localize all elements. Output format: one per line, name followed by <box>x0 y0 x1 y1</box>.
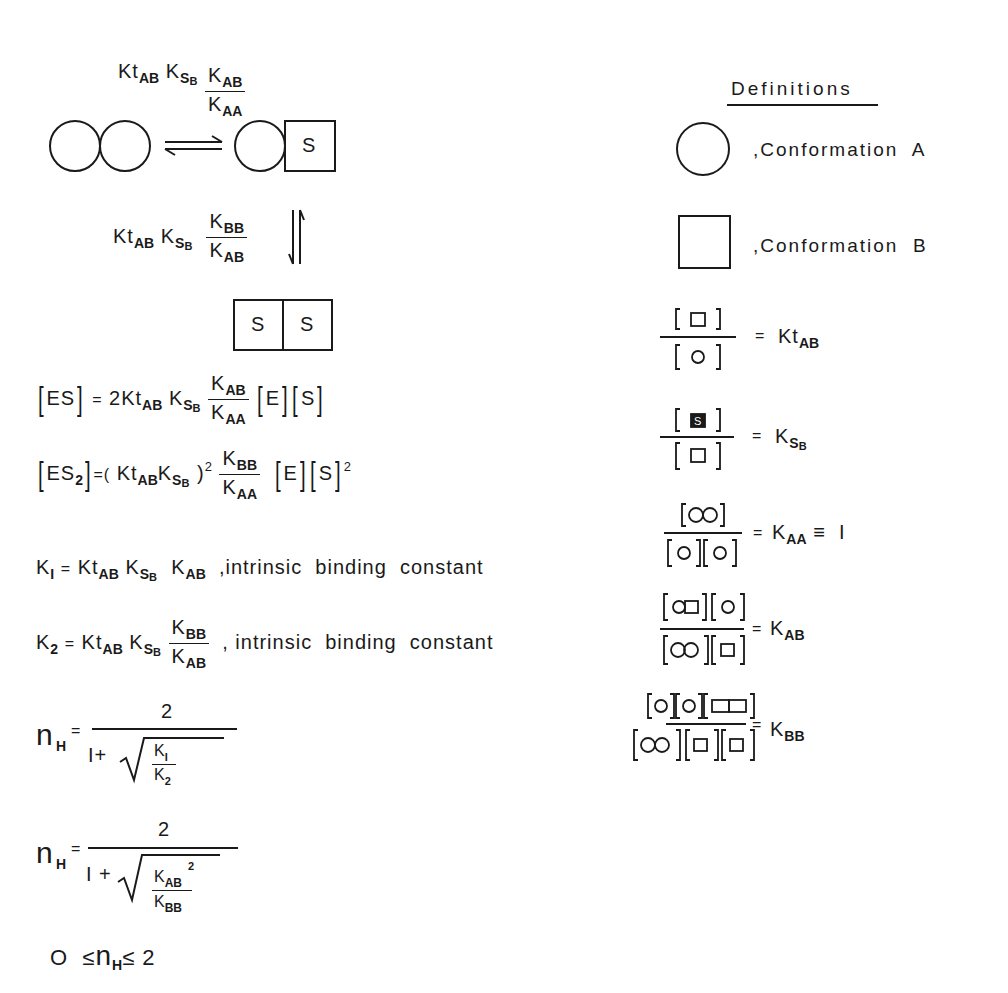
step2-rate-expression: KtAB KSB KBB KAB <box>113 210 247 265</box>
kab-subscript: AB <box>784 627 804 643</box>
nh-subscript: H <box>56 738 66 754</box>
es2-subscript: 2 <box>75 472 83 488</box>
kt-subscript: AB <box>134 235 154 251</box>
k-symbol: K <box>154 766 165 783</box>
k-symbol: K <box>209 210 223 232</box>
es2-label-s-left: S <box>251 313 265 336</box>
identical-to-one: ≡ I <box>813 521 845 543</box>
kt-subscript: AB <box>99 566 119 582</box>
fraction-numerator: KBB <box>169 616 210 644</box>
denominator-prefix: I+ <box>88 744 107 767</box>
definition-kaa: = KAA ≡ I <box>650 500 880 580</box>
radicand-numerator: KAB <box>154 868 182 890</box>
k-subscript: BB <box>237 457 257 473</box>
power-2: 2 <box>188 860 194 872</box>
s-symbol: S <box>301 387 315 409</box>
svg-text:S: S <box>694 415 701 427</box>
e-symbol: E <box>266 387 280 409</box>
k2-subscript: 2 <box>50 641 58 657</box>
es2-label-s-right: S <box>300 313 314 336</box>
bracket-open: [ <box>293 379 299 418</box>
main-fraction-bar <box>92 728 237 730</box>
k-symbol: K <box>209 239 223 261</box>
kt-subscript: AB <box>103 641 123 657</box>
ks-subscript: S <box>175 235 184 251</box>
k1-note: ,intrinsic binding constant <box>219 556 484 578</box>
k-symbol: K <box>211 372 225 394</box>
nh-subscript: H <box>56 856 66 872</box>
fraction-denominator: KAB <box>169 644 210 671</box>
radicand-fraction-bar <box>152 890 192 891</box>
fraction-numerator: KAB <box>208 372 249 400</box>
kt-symbol: Kt <box>117 462 138 484</box>
bracket-open: [ <box>38 379 44 418</box>
equals-sign: = <box>61 560 71 577</box>
k-subscript: BB <box>186 626 206 642</box>
kab-letter: K <box>770 617 784 639</box>
bracket-close: ] <box>335 454 341 493</box>
radicand-denominator: K2 <box>154 766 171 787</box>
numerator-2: 2 <box>158 818 170 841</box>
equals-sign: = <box>752 716 761 734</box>
kt-symbol: Kt <box>113 225 134 247</box>
nh-symbol: n <box>36 718 53 752</box>
fraction-numerator: KBB <box>219 447 260 475</box>
hill-coefficient-range: O ≤nH≤ 2 <box>50 940 156 973</box>
bracket-open: [ <box>257 379 263 418</box>
kbb-over-kab-fraction: KBB KAB <box>206 210 247 265</box>
conformation-a-circle <box>100 121 150 171</box>
less-equal-sign: ≤ <box>122 945 135 970</box>
equals-sign: = <box>753 524 762 542</box>
bracket-close: ] <box>300 454 306 493</box>
equals-sign: = <box>92 391 102 408</box>
kab-symbol: K <box>171 556 185 578</box>
numerator-2: 2 <box>161 700 173 723</box>
definitions-heading: Definitions <box>731 78 853 100</box>
definition-kbb: = KBB <box>630 690 860 775</box>
denominator-prefix: I + <box>86 863 112 886</box>
equation-es2: [ES2]=( KtABKSB )2 KBB KAA [E][S]2 <box>36 447 352 502</box>
bracket-close: ] <box>317 379 323 418</box>
bracket-open: [ <box>310 454 316 493</box>
equals-paren: =( <box>93 466 110 483</box>
k-subscript: AB <box>225 382 245 398</box>
k2-note: , intrinsic binding constant <box>222 631 493 653</box>
less-equal-sign: ≤ <box>82 945 95 970</box>
k-subscript: AB <box>224 249 244 265</box>
bracket-close: ] <box>85 454 91 493</box>
bracket-close: ] <box>282 379 288 418</box>
k-subscript: AB <box>186 655 206 671</box>
conformation-a-circle <box>235 121 285 171</box>
bracket-open: [ <box>38 454 44 493</box>
fraction-numerator: KBB <box>206 210 247 238</box>
a-a-bb-over-aa-b-b-fraction-icon <box>630 690 760 775</box>
ks-subscript: S <box>183 397 192 413</box>
ks-subscript: S <box>144 641 153 657</box>
k1-subscript: I <box>50 566 54 582</box>
equilibrium-arrow-horizontal-icon <box>165 136 222 155</box>
kt-symbol: Kt <box>78 556 99 578</box>
paren-close: ) <box>197 462 205 484</box>
equation-k1: KI = KtAB KSB KAB ,intrinsic binding con… <box>36 556 484 583</box>
kbb-letter: K <box>770 718 784 740</box>
ks-subsubscript: B <box>149 571 158 583</box>
k-symbol: K <box>222 476 236 498</box>
square-root-icon <box>114 732 234 802</box>
kbb-over-kab-fraction: KBB KAB <box>169 616 210 671</box>
es-label-s: S <box>302 134 316 157</box>
k-subscript: BB <box>165 901 182 915</box>
k1-symbol: K <box>36 556 50 578</box>
k-symbol: K <box>154 868 165 885</box>
definition-kab: = KAB <box>650 590 880 680</box>
ks-subsubscript: B <box>799 440 808 452</box>
conformation-b-legend-square <box>679 216 730 268</box>
e-symbol: E <box>284 462 298 484</box>
kt-subscript: AB <box>138 472 158 488</box>
nh-symbol: n <box>36 836 53 870</box>
ks-subsubscript: B <box>184 240 193 252</box>
k-subscript: I <box>165 751 168 763</box>
ks-symbol: K <box>158 462 172 484</box>
conformation-b-label: ,Conformation B <box>753 235 928 257</box>
kaa-subscript: AA <box>786 531 806 547</box>
kt-symbol: Kt <box>82 631 103 653</box>
